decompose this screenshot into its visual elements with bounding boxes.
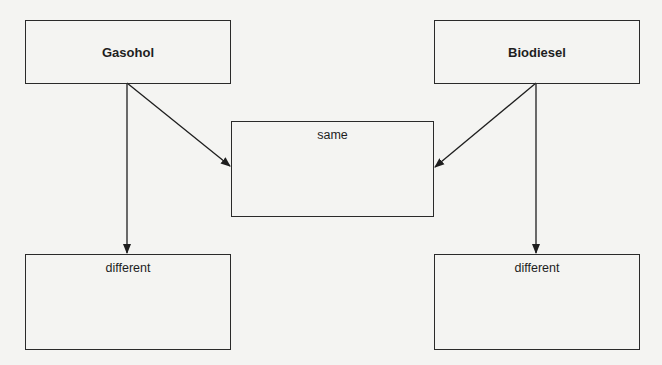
different-left-box: different xyxy=(25,254,231,350)
biodiesel-label: Biodiesel xyxy=(508,45,566,60)
gasohol-label: Gasohol xyxy=(102,45,154,60)
arrow-biodiesel-to-same xyxy=(435,83,536,167)
different-right-label: different xyxy=(435,255,639,275)
same-label: same xyxy=(232,122,433,142)
gasohol-box: Gasohol xyxy=(25,20,231,84)
same-box: same xyxy=(231,121,434,217)
different-right-box: different xyxy=(434,254,640,350)
different-left-label: different xyxy=(26,255,230,275)
biodiesel-box: Biodiesel xyxy=(434,20,640,84)
arrow-gasohol-to-same xyxy=(127,83,230,166)
